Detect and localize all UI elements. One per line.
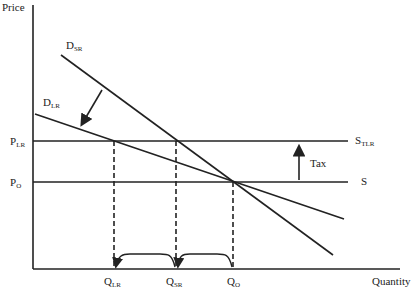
stlr-label: STLR bbox=[355, 135, 374, 148]
qsr-label: QSR bbox=[166, 276, 183, 289]
shift-arrow bbox=[82, 90, 102, 124]
dlr-label: DLR bbox=[43, 97, 60, 110]
x-axis-label: Quantity bbox=[372, 276, 411, 287]
s-label: S bbox=[361, 176, 367, 189]
po-label: PO bbox=[10, 177, 21, 190]
qlr-label: QLR bbox=[104, 276, 121, 289]
plr-label: PLR bbox=[10, 136, 25, 149]
dsr-line bbox=[61, 55, 333, 255]
qo-label: QO bbox=[227, 276, 240, 289]
dlr-line bbox=[35, 114, 344, 219]
tax-label: Tax bbox=[310, 158, 326, 169]
y-axis-label: Price bbox=[2, 2, 25, 13]
brace-arrow-1 bbox=[116, 254, 175, 267]
brace-arrow-2 bbox=[178, 254, 232, 267]
dsr-label: DSR bbox=[66, 40, 83, 53]
